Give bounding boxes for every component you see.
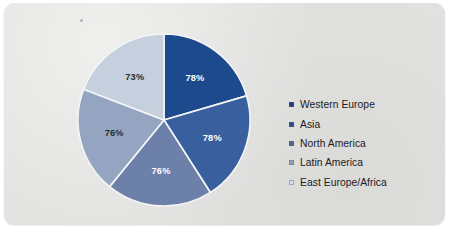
legend-swatch-icon	[289, 122, 294, 127]
legend-item[interactable]: East Europe/Africa	[289, 173, 439, 192]
legend-item-label: Latin America	[300, 157, 363, 168]
chart-legend: Western EuropeAsiaNorth AmericaLatin Ame…	[289, 95, 439, 192]
pie-slice-label: 78%	[185, 73, 204, 83]
legend-item-label: Asia	[300, 119, 320, 130]
pie-chart: 78%78%76%76%73%	[76, 22, 252, 208]
pie-slice-label: 76%	[105, 128, 124, 138]
legend-swatch-icon	[289, 180, 294, 185]
legend-swatch-icon	[289, 141, 294, 146]
legend-item-label: East Europe/Africa	[300, 177, 387, 188]
pie-slice-label: 78%	[203, 133, 222, 143]
pie-slice-label: 73%	[125, 72, 144, 82]
pie-chart-svg: 78%78%76%76%73%	[76, 22, 252, 208]
legend-item[interactable]: North America	[289, 134, 439, 153]
legend-item[interactable]: Western Europe	[289, 95, 439, 114]
legend-swatch-icon	[289, 160, 294, 165]
chart-screenshot: 78%78%76%76%73% Western EuropeAsiaNorth …	[0, 0, 449, 246]
legend-item[interactable]: Latin America	[289, 153, 439, 172]
chart-panel: 78%78%76%76%73% Western EuropeAsiaNorth …	[4, 3, 445, 225]
legend-swatch-icon	[289, 102, 294, 107]
legend-item[interactable]: Asia	[289, 114, 439, 133]
legend-item-label: Western Europe	[300, 99, 375, 110]
legend-item-label: North America	[300, 138, 366, 149]
pie-slice-label: 76%	[152, 166, 171, 176]
pie-slice-group	[78, 34, 250, 206]
page-bottom-margin	[0, 226, 449, 246]
